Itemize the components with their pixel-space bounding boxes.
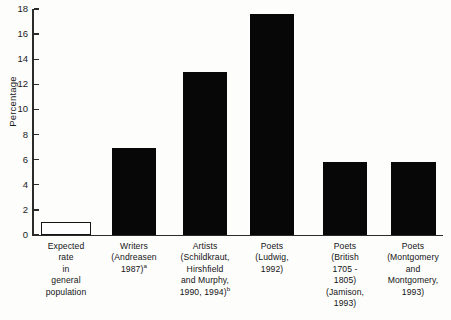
footnote-marker: b [227,285,231,292]
footnote-marker: a [143,262,147,269]
category-label-line: (British [306,252,384,263]
category-label-line: Poets [306,241,384,252]
category-label-line: 1705 - [306,264,384,275]
category-label-1: Expectedrateingeneralpopulation [27,241,105,298]
category-label-line: (Andreasen [95,252,173,263]
category-label-2: Writers(Andreasen1987)a [95,241,173,275]
category-label-line: Expected [27,241,105,252]
category-label-line: 1993) [306,298,384,309]
category-label-line: 1993) [374,287,451,298]
category-label-line: general [27,275,105,286]
category-label-line: (Ludwig, [233,252,311,263]
category-label-line: rate [27,252,105,263]
bar-4 [250,14,294,235]
bar-chart: Percentage 024681012141618 Expectedratei… [0,0,451,320]
category-label-line: population [27,287,105,298]
bar-2 [112,148,156,235]
category-label-line: (Jamison, [306,287,384,298]
category-label-line: (Montgomery [374,252,451,263]
category-label-line: Montgomery, [374,275,451,286]
category-label-line: 1987)a [95,264,173,275]
category-label-5: Poets(British1705 -1805)(Jamison,1993) [306,241,384,309]
bar-6 [391,162,436,235]
category-label-4: Poets(Ludwig,1992) [233,241,311,275]
category-label-line: Writers [95,241,173,252]
category-label-line: and Murphy, [166,275,244,286]
bar-5 [323,162,367,235]
category-label-6: Poets(MontgomeryandMontgomery,1993) [374,241,451,298]
category-label-line: Poets [374,241,451,252]
category-label-line: 1805) [306,275,384,286]
bar-3 [183,72,227,235]
category-label-line: 1990, 1994)b [166,287,244,298]
bar-1 [41,222,91,235]
category-label-line: and [374,264,451,275]
category-label-line: Poets [233,241,311,252]
category-label-line: in [27,264,105,275]
category-label-line: 1992) [233,264,311,275]
